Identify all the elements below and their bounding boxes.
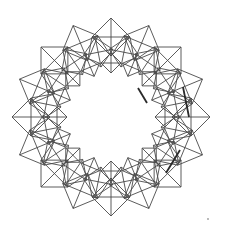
edge	[167, 136, 191, 140]
edge	[167, 94, 191, 98]
edge	[30, 117, 50, 130]
edge	[12, 117, 31, 136]
edge	[57, 107, 67, 117]
edge	[130, 37, 134, 61]
edge	[111, 161, 121, 171]
edge	[111, 63, 121, 73]
edge	[88, 173, 92, 197]
edge	[88, 37, 92, 61]
edge	[130, 173, 134, 197]
stray-dot	[207, 218, 209, 220]
ring-of-squares-figure	[0, 0, 225, 231]
edge	[111, 197, 130, 216]
edge	[172, 117, 192, 130]
edge	[31, 136, 55, 140]
edge	[101, 63, 111, 73]
edge	[138, 88, 147, 103]
edge	[111, 36, 124, 56]
edge	[98, 36, 111, 56]
edge	[57, 117, 67, 127]
edge	[30, 104, 50, 117]
edge	[98, 178, 111, 198]
figure-edges	[12, 18, 210, 216]
edge	[111, 178, 124, 198]
edge	[155, 117, 165, 127]
edge	[191, 98, 210, 117]
edge	[155, 107, 165, 117]
edge	[31, 94, 55, 98]
edge	[101, 161, 111, 171]
